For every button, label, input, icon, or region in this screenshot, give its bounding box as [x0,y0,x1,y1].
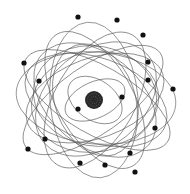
electron-dot [36,78,41,83]
atom-diagram [0,0,190,194]
electron-dot [145,77,150,82]
electron-dot [114,17,119,22]
electron-dot [152,125,157,130]
electron-dot [75,14,80,19]
nucleus [85,91,103,109]
electron-dot [145,59,150,64]
electron-dot [75,106,80,111]
electron-dot [77,160,82,165]
electron-dot [42,136,47,141]
electron-dot [119,94,124,99]
electron-dot [25,146,30,151]
electron-dot [127,150,132,155]
electron-dot [140,32,145,37]
electron-dot [132,169,137,174]
electron-dot [170,86,175,91]
electron-dot [102,162,107,167]
electron-dot [21,60,26,65]
